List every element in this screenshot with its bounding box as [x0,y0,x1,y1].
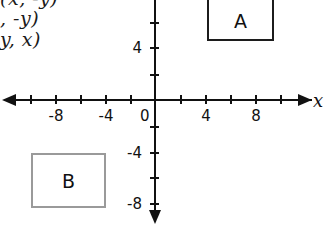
y-tick--4 [150,152,159,154]
y-tick-8 [150,22,159,24]
transformation-rule-line-3: y, x) [0,28,41,50]
x-tick--6 [80,95,82,104]
y-tick--6 [150,177,159,179]
x-tick--4 [105,95,107,104]
x-tick-10 [280,95,282,104]
x-tick-label-4: 4 [201,107,211,125]
x-tick-6 [230,95,232,104]
origin-label: 0 [140,107,150,125]
x-axis-arrow-right-icon [298,94,312,106]
x-tick-8 [255,95,257,104]
y-axis-arrow-down-icon [149,210,161,224]
x-axis-label: x [313,90,323,111]
x-axis [12,99,312,101]
figure-b-rectangle: B [31,153,106,208]
y-tick--2 [150,126,159,128]
y-tick-label--4: -4 [114,144,142,162]
x-tick--2 [130,95,132,104]
coordinate-plane-diagram: (x, -y) , -y) y, x) -8-448 4-4-8 0 x A B [0,0,334,226]
x-tick-2 [180,95,182,104]
x-axis-arrow-left-icon [2,94,16,106]
y-tick-label-4: 4 [114,39,142,57]
transformation-rule-line-2: , -y) [0,7,39,29]
y-tick-label--8: -8 [114,195,142,213]
y-axis [154,0,156,218]
x-tick-label--4: -4 [99,107,114,125]
x-tick-label-8: 8 [251,107,261,125]
figure-a-rectangle: A [207,0,274,41]
y-tick-2 [150,74,159,76]
figure-b-label: B [62,170,75,192]
y-tick--8 [150,203,159,205]
y-tick-4 [150,47,159,49]
x-tick--8 [55,95,57,104]
x-tick-label--8: -8 [49,107,64,125]
figure-a-label: A [234,10,247,32]
x-tick--10 [30,95,32,104]
x-tick-4 [205,95,207,104]
